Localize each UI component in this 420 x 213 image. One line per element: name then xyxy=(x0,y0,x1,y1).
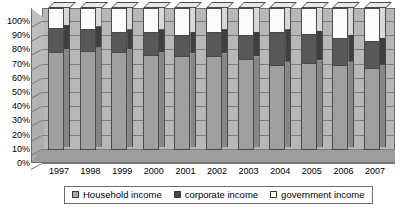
x-axis-tick-label: 1998 xyxy=(74,166,108,176)
y-axis-tick-label: 40% xyxy=(0,102,30,111)
legend-label: government income xyxy=(281,189,364,200)
segment-household-side xyxy=(348,62,354,147)
legend-label: corporate income xyxy=(185,189,258,200)
segment-corporate[interactable] xyxy=(111,32,127,52)
segment-corporate[interactable] xyxy=(174,35,190,56)
y-axis-tick-label: 10% xyxy=(0,145,30,154)
segment-corporate-side xyxy=(348,35,354,62)
segment-household-side xyxy=(254,56,260,147)
segment-government-side xyxy=(285,5,291,29)
segment-government[interactable] xyxy=(206,8,222,32)
segment-corporate[interactable] xyxy=(80,29,96,50)
x-axis-tick-label: 2001 xyxy=(168,166,202,176)
segment-household-side xyxy=(222,53,228,147)
segment-government-side xyxy=(222,5,228,29)
segment-government[interactable] xyxy=(301,8,317,34)
segment-household-side xyxy=(317,60,323,147)
x-axis-tick-label: 2007 xyxy=(358,166,392,176)
plot-area xyxy=(31,8,395,163)
segment-household-side xyxy=(380,65,386,147)
segment-household-side xyxy=(127,49,133,147)
segment-government[interactable] xyxy=(143,8,159,32)
segment-corporate[interactable] xyxy=(238,35,254,59)
segment-household-side xyxy=(285,62,291,147)
segment-corporate[interactable] xyxy=(301,34,317,64)
plot-floor xyxy=(31,149,395,163)
legend-item[interactable]: government income xyxy=(270,189,364,200)
segment-government-side xyxy=(254,5,260,32)
segment-household[interactable] xyxy=(364,68,380,150)
segment-household[interactable] xyxy=(143,55,159,150)
segment-household[interactable] xyxy=(269,65,285,150)
bar-group[interactable] xyxy=(269,0,291,150)
bar-group[interactable] xyxy=(238,0,260,150)
x-axis-tick-label: 1997 xyxy=(42,166,76,176)
y-axis-tick-label: 60% xyxy=(0,74,30,83)
segment-government-side xyxy=(380,5,386,38)
segment-corporate-side xyxy=(127,29,133,49)
segment-household[interactable] xyxy=(111,52,127,150)
segment-government-side xyxy=(317,5,323,31)
x-axis-tick-label: 2005 xyxy=(295,166,329,176)
y-axis-tick-label: 70% xyxy=(0,60,30,69)
gridline xyxy=(42,163,395,164)
bar-group[interactable] xyxy=(364,0,386,150)
segment-corporate-side xyxy=(380,38,386,65)
segment-government[interactable] xyxy=(364,8,380,41)
segment-government[interactable] xyxy=(174,8,190,35)
segment-corporate-side xyxy=(317,31,323,61)
segment-government[interactable] xyxy=(269,8,285,32)
segment-household[interactable] xyxy=(301,63,317,150)
segment-corporate-side xyxy=(285,29,291,62)
segment-corporate[interactable] xyxy=(143,32,159,55)
segment-government[interactable] xyxy=(332,8,348,38)
segment-corporate[interactable] xyxy=(332,38,348,65)
legend-swatch-icon xyxy=(174,191,181,198)
bar-group[interactable] xyxy=(301,0,323,150)
y-axis-tick-label: 30% xyxy=(0,116,30,125)
legend-label: Household income xyxy=(83,189,162,200)
segment-household[interactable] xyxy=(174,56,190,150)
bar-group[interactable] xyxy=(48,0,70,150)
segment-household[interactable] xyxy=(48,52,64,150)
x-axis-tick-label: 2004 xyxy=(263,166,297,176)
segment-household-side xyxy=(190,53,196,147)
segment-government[interactable] xyxy=(238,8,254,35)
y-axis-tick-label: 0% xyxy=(0,159,30,168)
gridline-depth-tick xyxy=(31,163,42,170)
legend-swatch-icon xyxy=(270,191,277,198)
y-axis: 100%90%80%70%60%50%40%30%20%10%0% xyxy=(0,0,30,213)
segment-corporate[interactable] xyxy=(364,41,380,68)
segment-corporate[interactable] xyxy=(48,28,64,52)
y-axis-tick-label: 90% xyxy=(0,31,30,40)
segment-corporate-side xyxy=(222,29,228,53)
segment-government[interactable] xyxy=(48,8,64,28)
segment-government[interactable] xyxy=(80,8,96,29)
bar-group[interactable] xyxy=(80,0,102,150)
segment-corporate-side xyxy=(190,32,196,53)
segment-corporate-side xyxy=(64,25,70,49)
segment-household-side xyxy=(96,48,102,147)
segment-corporate[interactable] xyxy=(206,32,222,56)
legend-item[interactable]: Household income xyxy=(72,189,162,200)
bar-group[interactable] xyxy=(143,0,165,150)
bar-group[interactable] xyxy=(332,0,354,150)
segment-household[interactable] xyxy=(206,56,222,150)
segment-government-side xyxy=(127,5,133,29)
bar-group[interactable] xyxy=(206,0,228,150)
segment-corporate[interactable] xyxy=(269,32,285,65)
y-axis-tick-label: 100% xyxy=(0,17,30,26)
segment-household[interactable] xyxy=(238,59,254,150)
segment-household-side xyxy=(64,49,70,147)
segment-household[interactable] xyxy=(80,51,96,150)
segment-government-side xyxy=(159,5,165,29)
bar-group[interactable] xyxy=(174,0,196,150)
segment-household[interactable] xyxy=(332,65,348,150)
segment-government-side xyxy=(348,5,354,35)
bar-group[interactable] xyxy=(111,0,133,150)
legend-item[interactable]: corporate income xyxy=(174,189,258,200)
stacked-bar-chart: 100%90%80%70%60%50%40%30%20%10%0% 199719… xyxy=(0,0,420,213)
segment-corporate-side xyxy=(96,26,102,47)
segment-government[interactable] xyxy=(111,8,127,32)
segment-government-side xyxy=(190,5,196,32)
